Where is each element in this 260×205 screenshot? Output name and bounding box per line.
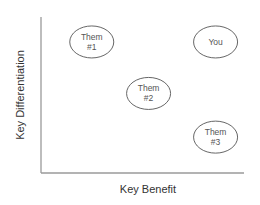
x-axis-label: Key Benefit [120,183,176,195]
bubble-them-2: Them#2 [127,77,171,109]
bubble-label: Them [205,127,227,137]
bubble-label: #1 [87,42,97,52]
y-axis-label: Key Differentiation [14,50,26,140]
bubble-label: Them [81,32,103,42]
bubble-label: #3 [211,137,221,147]
positioning-map: Key Benefit Key Differentiation Them#1Yo… [0,0,260,205]
bubbles-layer: Them#1YouThem#2Them#3 [70,26,238,153]
bubble-label: Them [138,83,160,93]
bubble-label: You [208,37,223,47]
bubble-them-1: Them#1 [70,26,114,58]
bubble-label: #2 [144,93,154,103]
bubble-them-3: Them#3 [194,121,238,153]
bubble-you: You [194,26,238,58]
